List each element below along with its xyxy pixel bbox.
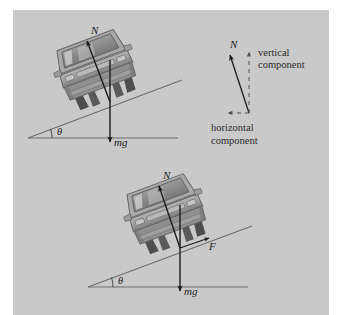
car-top xyxy=(47,26,147,116)
resultant-vector-label: N xyxy=(229,38,238,50)
resultant-vector-arrow xyxy=(230,55,249,113)
friction-force-arrow xyxy=(180,238,209,248)
angle-label-top: θ xyxy=(57,126,62,137)
physics-figure: θ N mg N vertical component horizontal c… xyxy=(0,0,343,315)
figure-page: θ N mg N vertical component horizontal c… xyxy=(0,0,343,315)
vertical-component-label-line1: vertical xyxy=(258,47,290,58)
normal-force-label-bottom: N xyxy=(162,169,171,181)
car-bottom xyxy=(117,170,217,260)
angle-arc-bottom xyxy=(112,278,114,288)
horizontal-component-label-line2: component xyxy=(211,135,258,146)
angle-label-bottom: θ xyxy=(118,275,123,286)
vertical-component-label-line2: component xyxy=(258,59,305,70)
weight-label-top: mg xyxy=(114,136,128,148)
horizontal-component-label-line1: horizontal xyxy=(211,122,254,133)
friction-force-label: F xyxy=(208,240,216,252)
normal-force-label-top: N xyxy=(90,24,99,36)
diagram-bottom-incline: θ xyxy=(88,226,252,287)
vector-decomposition-inset: N vertical component horizontal componen… xyxy=(211,38,305,146)
angle-arc-top xyxy=(51,129,52,138)
incline-line-bottom xyxy=(88,226,252,287)
weight-label-bottom: mg xyxy=(184,285,198,297)
